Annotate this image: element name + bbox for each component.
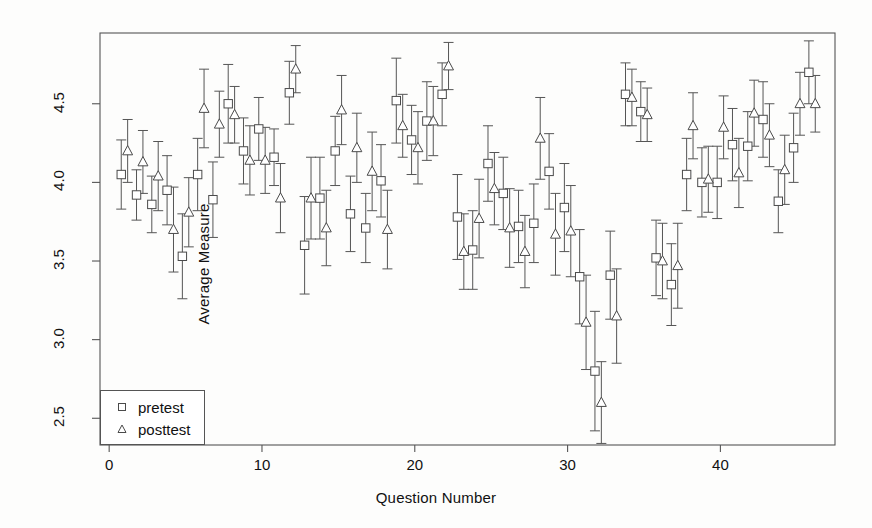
markers-pretest	[117, 68, 813, 375]
data-point-posttest	[153, 171, 163, 180]
data-point-posttest	[184, 207, 194, 216]
data-point-pretest	[759, 115, 767, 123]
data-point-posttest	[367, 166, 377, 175]
data-point-posttest	[123, 146, 133, 155]
data-point-posttest	[581, 317, 591, 326]
data-point-pretest	[362, 224, 370, 232]
data-point-pretest	[331, 147, 339, 155]
data-point-pretest	[789, 144, 797, 152]
data-point-posttest	[780, 164, 790, 173]
data-point-pretest	[621, 90, 629, 98]
square-icon	[115, 400, 129, 414]
data-point-pretest	[728, 140, 736, 148]
data-point-posttest	[810, 98, 820, 107]
data-point-posttest	[138, 157, 148, 166]
data-point-pretest	[560, 203, 568, 211]
data-point-posttest	[673, 260, 683, 269]
data-point-posttest	[275, 193, 285, 202]
data-point-pretest	[591, 367, 599, 375]
error-bars-pretest	[116, 41, 814, 431]
data-point-pretest	[407, 136, 415, 144]
data-point-pretest	[117, 170, 125, 178]
x-tick-label: 10	[242, 456, 282, 473]
data-point-pretest	[346, 210, 354, 218]
markers-posttest	[123, 61, 821, 407]
data-point-pretest	[530, 219, 538, 227]
data-point-posttest	[444, 61, 454, 70]
data-point-posttest	[260, 155, 270, 164]
data-point-pretest	[316, 194, 324, 202]
data-point-posttest	[734, 168, 744, 177]
data-point-pretest	[484, 159, 492, 167]
data-point-pretest	[499, 189, 507, 197]
data-point-posttest	[474, 213, 484, 222]
x-tick-label: 20	[395, 456, 435, 473]
data-point-pretest	[637, 107, 645, 115]
legend: pretest posttest	[100, 390, 205, 445]
data-point-pretest	[255, 125, 263, 133]
triangle-icon	[115, 422, 129, 436]
data-point-posttest	[505, 223, 515, 232]
data-point-pretest	[606, 271, 614, 279]
legend-item-pretest[interactable]: pretest	[115, 399, 184, 416]
data-point-posttest	[749, 108, 759, 117]
data-point-posttest	[612, 311, 622, 320]
data-point-pretest	[178, 252, 186, 260]
data-point-pretest	[682, 170, 690, 178]
data-point-pretest	[652, 254, 660, 262]
x-tick-label: 30	[548, 456, 588, 473]
data-point-pretest	[805, 68, 813, 76]
legend-label-pretest: pretest	[138, 399, 184, 416]
data-point-pretest	[300, 241, 308, 249]
data-point-pretest	[575, 273, 583, 281]
data-point-pretest	[239, 147, 247, 155]
data-point-posttest	[719, 122, 729, 131]
y-tick-label: 3.0	[50, 318, 67, 358]
data-point-pretest	[469, 246, 477, 254]
data-point-pretest	[285, 89, 293, 97]
data-point-pretest	[377, 177, 385, 185]
data-point-pretest	[132, 191, 140, 199]
data-point-posttest	[596, 397, 606, 406]
data-point-pretest	[438, 90, 446, 98]
data-point-posttest	[230, 109, 240, 118]
data-point-posttest	[795, 98, 805, 107]
data-point-posttest	[214, 119, 224, 128]
data-point-posttest	[764, 130, 774, 139]
data-point-posttest	[291, 64, 301, 73]
data-point-pretest	[514, 222, 522, 230]
scatter-plot-canvas	[0, 0, 872, 528]
data-point-posttest	[321, 223, 331, 232]
data-point-posttest	[535, 133, 545, 142]
data-point-posttest	[566, 226, 576, 235]
data-point-posttest	[398, 120, 408, 129]
data-point-pretest	[744, 142, 752, 150]
y-tick-label: 2.5	[50, 397, 67, 437]
data-point-posttest	[245, 155, 255, 164]
data-point-posttest	[489, 183, 499, 192]
x-tick-label: 0	[89, 456, 129, 473]
data-point-pretest	[224, 100, 232, 108]
data-point-pretest	[163, 186, 171, 194]
x-tick-label: 40	[700, 456, 740, 473]
data-point-posttest	[520, 246, 530, 255]
legend-label-posttest: posttest	[138, 421, 191, 438]
chart-figure: Question Number Average Measure 01020304…	[0, 0, 872, 528]
y-axis-title: Average Measure	[194, 0, 214, 528]
legend-item-posttest[interactable]: posttest	[115, 421, 191, 438]
data-point-posttest	[688, 120, 698, 129]
y-tick-label: 4.5	[50, 82, 67, 122]
data-point-pretest	[453, 213, 461, 221]
data-point-posttest	[337, 105, 347, 114]
data-point-posttest	[352, 142, 362, 151]
data-point-posttest	[169, 224, 179, 233]
x-axis-title: Question Number	[0, 489, 872, 506]
data-point-pretest	[270, 153, 278, 161]
data-point-posttest	[382, 224, 392, 233]
data-point-posttest	[459, 246, 469, 255]
data-point-pretest	[392, 96, 400, 104]
data-point-pretest	[713, 178, 721, 186]
data-point-posttest	[551, 229, 561, 238]
y-tick-label: 3.5	[50, 240, 67, 280]
data-point-pretest	[774, 197, 782, 205]
